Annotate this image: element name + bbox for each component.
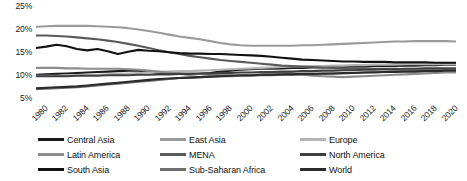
legend-label: Sub-Saharan Africa — [189, 165, 265, 175]
x-axis-tick: 1988 — [112, 103, 132, 123]
x-axis-tick: 2006 — [296, 103, 316, 123]
line-plot — [36, 6, 456, 103]
legend-label: World — [329, 165, 352, 175]
legend-item[interactable]: South Asia — [0, 162, 160, 177]
x-axis-tick: 2010 — [337, 103, 357, 123]
legend-swatch-icon — [300, 153, 326, 156]
legend-item[interactable]: Central Asia — [0, 132, 160, 147]
legend-label: North America — [329, 150, 385, 160]
legend-label: Europe — [329, 135, 357, 145]
chart-container: 25%20%15%10%5% 1980198219841986198819901… — [0, 0, 467, 181]
legend-row: Central AsiaEast AsiaEurope — [0, 132, 467, 147]
plot-svg — [36, 6, 456, 103]
x-axis-tick: 2000 — [235, 103, 255, 123]
x-axis-tick: 2020 — [439, 103, 459, 123]
legend-label: East Asia — [189, 135, 226, 145]
x-axis-labels: 1980198219841986198819901992199419961998… — [36, 104, 456, 128]
legend-label: South Asia — [67, 165, 109, 175]
x-axis-tick: 1984 — [71, 103, 91, 123]
legend-swatch-icon — [300, 168, 326, 171]
legend-swatch-icon — [38, 138, 64, 141]
y-axis-labels: 25%20%15%10%5% — [0, 0, 36, 110]
legend-item[interactable]: North America — [300, 147, 467, 162]
legend-row: South AsiaSub-Saharan AfricaWorld — [0, 162, 467, 177]
x-axis-tick: 2002 — [255, 103, 275, 123]
series-line — [36, 45, 456, 63]
legend-item[interactable]: East Asia — [160, 132, 300, 147]
x-axis-tick: 2012 — [357, 103, 377, 123]
x-axis-tick: 1998 — [214, 103, 234, 123]
x-axis-tick: 2014 — [378, 103, 398, 123]
legend-item[interactable]: World — [300, 162, 467, 177]
y-axis-tick: 15% — [16, 47, 32, 57]
legend-item[interactable]: Latin America — [0, 147, 160, 162]
y-axis-tick: 5% — [20, 93, 32, 103]
legend-swatch-icon — [38, 153, 64, 156]
x-axis-tick: 1986 — [91, 103, 111, 123]
legend-swatch-icon — [160, 168, 186, 171]
legend-item[interactable]: Sub-Saharan Africa — [160, 162, 300, 177]
series-line — [36, 26, 456, 46]
y-axis-tick: 20% — [16, 24, 32, 34]
legend-swatch-icon — [300, 138, 326, 141]
y-axis-tick: 25% — [16, 1, 32, 11]
plot-area: 25%20%15%10%5% 1980198219841986198819901… — [0, 0, 467, 128]
x-axis-tick: 1994 — [173, 103, 193, 123]
x-axis-tick: 2004 — [275, 103, 295, 123]
legend-swatch-icon — [160, 138, 186, 141]
legend-label: Latin America — [67, 150, 120, 160]
y-axis-tick: 10% — [16, 70, 32, 80]
legend-item[interactable]: MENA — [160, 147, 300, 162]
x-axis-tick: 2018 — [419, 103, 439, 123]
legend-label: Central Asia — [67, 135, 114, 145]
legend-item[interactable]: Europe — [300, 132, 467, 147]
legend-swatch-icon — [160, 153, 186, 156]
x-axis-tick: 2008 — [316, 103, 336, 123]
x-axis-tick: 2016 — [398, 103, 418, 123]
x-axis-tick: 1992 — [153, 103, 173, 123]
legend-label: MENA — [189, 150, 215, 160]
chart-legend: Central AsiaEast AsiaEuropeLatin America… — [0, 128, 467, 181]
legend-row: Latin AmericaMENANorth America — [0, 147, 467, 162]
x-axis-tick: 1996 — [194, 103, 214, 123]
legend-swatch-icon — [38, 168, 64, 171]
x-axis-tick: 1982 — [50, 103, 70, 123]
x-axis-tick: 1990 — [132, 103, 152, 123]
